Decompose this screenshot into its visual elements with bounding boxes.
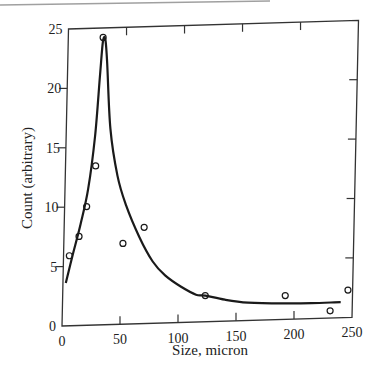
fitted-curve	[66, 37, 341, 304]
y-tick-label: 20	[47, 81, 61, 96]
data-point-marker	[120, 240, 126, 246]
y-tick-label: 15	[46, 141, 60, 156]
y-tick-label: 0	[49, 319, 56, 334]
x-tick-label: 250	[342, 325, 363, 340]
y-tick-label: 5	[50, 260, 57, 275]
plot-area	[62, 20, 359, 326]
data-point-marker	[327, 308, 333, 314]
y-tick-label: 25	[49, 22, 63, 37]
y-tick-label: 10	[45, 200, 59, 215]
x-axis-ticks: 050100150200250	[59, 22, 363, 349]
x-tick-label: 200	[284, 327, 305, 342]
x-tick-label: 0	[59, 334, 66, 349]
y-axis-ticks: 0510152025	[45, 22, 358, 334]
data-point-marker	[93, 163, 99, 169]
x-tick-label: 50	[113, 332, 127, 347]
y-axis-label: Count (arbitrary)	[19, 127, 36, 229]
data-point-marker	[345, 287, 351, 293]
chart: 050100150200250 0510152025 Size, micron …	[0, 0, 382, 378]
data-point-marker	[141, 224, 147, 230]
data-point-marker	[282, 293, 288, 299]
x-axis-label: Size, micron	[172, 342, 248, 358]
